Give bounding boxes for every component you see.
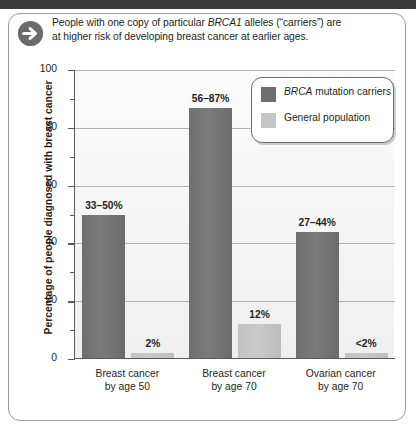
bar-value-label: 56–87%	[192, 93, 229, 104]
y-tick-major	[68, 243, 75, 244]
bar-general-1	[238, 324, 281, 359]
x-axis-label-line: by age 50	[105, 381, 150, 392]
callout-line1-post: alleles (“carriers”) are	[242, 17, 341, 28]
callout-line1-pre: People with one copy of particular	[52, 17, 208, 28]
gridline	[75, 186, 395, 187]
y-tick-label: 40	[17, 236, 57, 247]
x-axis-label-line: Breast cancer	[202, 368, 266, 379]
y-axis-title: Percentage of people diagnosed with brea…	[43, 68, 54, 348]
x-axis-label-line: by age 70	[318, 381, 363, 392]
bar-value-label: 2%	[145, 338, 160, 349]
y-tick-major	[68, 301, 75, 302]
bar-value-label: 27–44%	[298, 217, 335, 228]
legend-swatch	[261, 113, 276, 128]
x-axis-category-label: Breast cancerby age 70	[202, 367, 266, 393]
bar-carriers-2	[296, 232, 339, 359]
gridline	[75, 70, 395, 71]
legend-item-0[interactable]: BRCA mutation carriers	[261, 86, 391, 102]
plot-area: 020406080100 33–50%2%56–87%12%27–44%<2% …	[74, 70, 394, 359]
x-axis-line	[74, 358, 395, 359]
y-tick-minor	[70, 215, 75, 216]
y-tick-major	[68, 70, 75, 71]
legend-swatch	[261, 87, 276, 102]
chart-area: Percentage of people diagnosed with brea…	[0, 62, 416, 422]
x-axis-label-line: Ovarian cancer	[306, 368, 376, 379]
x-axis-category-label: Ovarian cancerby age 70	[306, 367, 376, 393]
callout-box: People with one copy of particular BRCA1…	[14, 16, 404, 60]
x-axis-label-line: Breast cancer	[96, 368, 160, 379]
bar-value-label: <2%	[356, 338, 377, 349]
callout-text: People with one copy of particular BRCA1…	[52, 16, 400, 45]
callout-line2: at higher risk of developing breast canc…	[52, 31, 308, 42]
legend-label: General population	[284, 112, 370, 125]
arrow-right-circle-icon	[17, 20, 44, 47]
x-axis-label-line: by age 70	[211, 381, 256, 392]
y-tick-label: 20	[17, 294, 57, 305]
y-tick-minor	[70, 157, 75, 158]
y-tick-minor	[70, 330, 75, 331]
legend-label: BRCA mutation carriers	[284, 86, 391, 99]
y-tick-label: 0	[17, 352, 57, 363]
y-tick-label: 60	[17, 179, 57, 190]
bar-carriers-0	[82, 215, 125, 360]
bar-value-label: 12%	[249, 309, 269, 320]
y-tick-label: 100	[17, 63, 57, 74]
chart-legend: BRCA mutation carriersGeneral population	[251, 77, 394, 143]
bar-carriers-1	[189, 108, 232, 359]
y-tick-minor	[70, 99, 75, 100]
y-tick-minor	[70, 272, 75, 273]
legend-label-gene: BRCA	[284, 86, 312, 97]
y-tick-major	[68, 186, 75, 187]
bar-value-label: 33–50%	[85, 200, 122, 211]
y-tick-label: 80	[17, 121, 57, 132]
callout-line1-gene: BRCA1	[208, 17, 242, 28]
legend-item-1[interactable]: General population	[261, 112, 370, 128]
x-axis-category-label: Breast cancerby age 50	[96, 367, 160, 393]
top-banner-bar	[0, 0, 416, 9]
y-tick-major	[68, 128, 75, 129]
